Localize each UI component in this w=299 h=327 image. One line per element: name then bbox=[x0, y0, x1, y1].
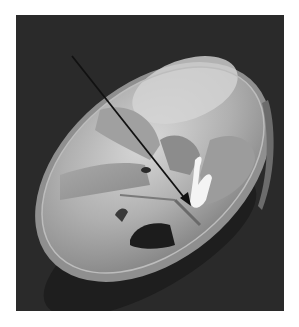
skull-photo bbox=[16, 15, 284, 311]
skull-illustration bbox=[16, 15, 284, 311]
foramen-ovale bbox=[141, 167, 151, 173]
